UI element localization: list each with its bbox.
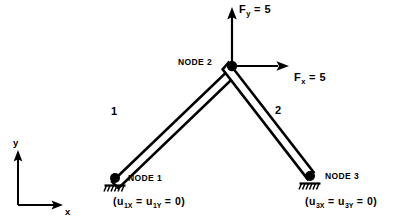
node-3-joint-dot [305, 171, 315, 181]
force-fy-label: Fy = 5 [239, 4, 271, 15]
force-fx-subscript: x [301, 77, 305, 86]
force-fx-value: 5 [319, 71, 326, 83]
diagram-vector-layer [0, 0, 415, 221]
node-1-constraint-label: (u1X = u1Y = 0) [113, 196, 185, 207]
coordinate-axes [14, 150, 63, 209]
force-fx-arrow [232, 61, 289, 71]
force-fx-label: Fx = 5 [294, 72, 326, 83]
node-1-joint-dot [110, 173, 120, 183]
force-fy-equals: = [254, 3, 261, 15]
node-3-label: NODE 3 [325, 172, 359, 181]
y-axis-label: y [13, 138, 18, 148]
force-fx-arrowhead [277, 61, 290, 71]
force-fy-subscript: y [246, 9, 250, 18]
element-2-label: 2 [275, 105, 281, 116]
force-fx-equals: = [309, 71, 316, 83]
node-1-constraint-open: (u [113, 195, 124, 207]
node-2-label: NODE 2 [178, 58, 212, 67]
node-1-constraint-sub-b: 1Y [153, 202, 162, 209]
truss-diagram-figure: NODE 2 NODE 1 NODE 3 1 2 Fy = 5 Fx = 5 (… [0, 0, 415, 221]
node-3-constraint-sub-b: 3Y [345, 202, 354, 209]
node-3-constraint-label: (u3X = u3Y = 0) [305, 196, 377, 207]
force-fy-value: 5 [264, 3, 271, 15]
node-1-constraint-mid: = u [132, 195, 152, 207]
node-1-constraint-close: = 0) [161, 195, 185, 207]
element-1-label: 1 [111, 106, 117, 117]
node-1-label: NODE 1 [128, 174, 162, 183]
node-3-constraint-sub-a: 3X [316, 202, 325, 209]
node-3-constraint-mid: = u [324, 195, 344, 207]
force-fy-arrow [227, 7, 237, 66]
x-axis-label: x [65, 207, 70, 217]
element-1-bar-outline [112, 70, 235, 188]
node-1-constraint-sub-a: 1X [124, 202, 133, 209]
node-3-constraint-open: (u [305, 195, 316, 207]
node-3-constraint-close: = 0) [353, 195, 377, 207]
element-1-member [112, 70, 235, 188]
